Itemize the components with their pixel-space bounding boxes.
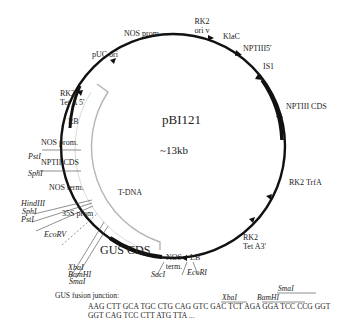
tdna-arc-inner xyxy=(75,92,146,250)
feature-is1: IS1 xyxy=(263,62,274,71)
feature-nos-prom: NOS prom. xyxy=(41,138,78,147)
feature-rk2-trfa: RK2 TrfA xyxy=(289,178,322,187)
feature-rk2-oriv-line1: RK2 xyxy=(190,17,214,26)
tdna-label: T-DNA xyxy=(118,188,142,197)
fusion-sequence-line2: GGT CAG TCC CTT ATG TTA ... xyxy=(88,311,195,321)
feature-rk2-teta3-line2: Tet A3' xyxy=(243,242,266,251)
feature-puc-ori: pUC ori xyxy=(92,50,118,59)
plasmid-size: ~13kb xyxy=(160,144,188,156)
feature-rk2-oriv: RK2 ori v xyxy=(190,17,214,35)
feature-nptiii-cds: NPTIII CDS xyxy=(286,102,327,111)
feature-nptii-cds: NPTII CDS xyxy=(41,158,79,167)
feature-nptiii5: NPTIII5' xyxy=(243,44,272,53)
feature-gus-cds: GUS CDS xyxy=(100,243,150,257)
feature-rk2-teta3-line1: RK2 xyxy=(243,233,266,242)
site-sphi: SphI xyxy=(28,169,43,178)
site-psti-lower: PstI xyxy=(21,215,34,224)
feature-nos-term-bottom-line2: term. xyxy=(163,262,185,271)
site-psti-upper: PstI xyxy=(28,152,41,161)
feature-rk2-teta3: RK2 Tet A3' xyxy=(243,233,266,251)
feature-35s-prom: 35S prom xyxy=(62,209,93,218)
feature-nos-term-bottom-line1: NOS xyxy=(163,253,185,262)
feature-lb: LB xyxy=(190,253,200,262)
feature-rb: RB xyxy=(68,117,79,126)
site-smai: SmaI xyxy=(69,277,85,286)
site-saci: SacI xyxy=(151,270,165,279)
plasmid-name: pBI121 xyxy=(162,113,201,127)
tdna-arc xyxy=(91,84,160,250)
feature-rk2-oriv-line2: ori v xyxy=(190,26,214,35)
feature-klac: KlaC xyxy=(223,32,240,41)
site-ecori: EcoRI xyxy=(187,268,207,277)
fusion-site-smai: SmaI xyxy=(278,284,294,294)
feature-rk2-teta5-line2: Tet A 5' xyxy=(60,98,84,107)
feature-nos-prom-top: NOS prom. xyxy=(124,29,161,38)
feature-rk2-teta5-line1: RK2 xyxy=(60,89,84,98)
site-ecorv: EcoRV xyxy=(44,230,66,239)
feature-rk2-teta5: RK2 Tet A 5' xyxy=(60,89,84,107)
fusion-junction-title: GUS fusion junction: xyxy=(55,291,119,300)
feature-nos-term-bottom: NOS term. xyxy=(163,253,185,271)
feature-nos-term-left: NOS term. xyxy=(49,183,84,192)
